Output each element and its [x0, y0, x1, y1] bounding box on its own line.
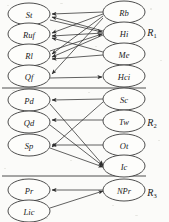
node-Hci[interactable]: Hci: [103, 65, 145, 87]
scan-speck-11: [45, 218, 48, 219]
edge-Rb-to-Rl: [52, 16, 103, 54]
scan-speck-7: [70, 160, 72, 161]
node-label-Pd: Pd: [23, 96, 34, 106]
node-Sc[interactable]: Sc: [103, 88, 145, 110]
node-Lic[interactable]: Lic: [8, 200, 50, 222]
graph-canvas: StRufRlQfRbHiMeHciPdQdSpScTwOtIcPrLicNPr…: [0, 0, 169, 222]
region-label-R1: R1: [146, 27, 156, 39]
edge-Pd-to-Ic: [50, 104, 103, 165]
edges-layer: [50, 12, 103, 208]
node-Ot[interactable]: Ot: [103, 134, 145, 156]
node-label-Ruf: Ruf: [22, 30, 36, 40]
scan-speck-8: [135, 215, 138, 216]
edge-Hi-to-Ruf: [52, 33, 103, 36]
node-label-NPr: NPr: [116, 186, 132, 196]
node-label-Me: Me: [118, 50, 130, 60]
node-Me[interactable]: Me: [103, 43, 145, 65]
scan-speck-10: [112, 205, 114, 206]
region-labels: R1R2R3: [146, 27, 156, 199]
edge-Qd-to-Ic: [50, 125, 103, 166]
node-label-Ic: Ic: [120, 162, 128, 172]
scan-speck-5: [12, 90, 15, 91]
scan-speck-1: [7, 5, 9, 6]
edge-Sp-to-Ic: [50, 148, 103, 167]
graph-diagram: StRufRlQfRbHiMeHciPdQdSpScTwOtIcPrLicNPr…: [0, 0, 169, 222]
node-Qf[interactable]: Qf: [8, 65, 50, 87]
edge-Sc-to-Sp: [52, 102, 103, 147]
node-Qd[interactable]: Qd: [8, 111, 50, 133]
node-Pd[interactable]: Pd: [8, 89, 50, 111]
edge-Rb-to-St: [52, 12, 103, 14]
edge-Hi-to-St: [52, 17, 103, 31]
scan-speck-13: [88, 92, 90, 93]
edge-Me-to-Ruf: [52, 38, 103, 52]
node-Rb[interactable]: Rb: [103, 1, 145, 23]
edge-Me-to-Rl: [52, 55, 103, 59]
scan-speck-6: [160, 60, 162, 61]
node-Sp[interactable]: Sp: [8, 134, 50, 156]
node-label-Ot: Ot: [120, 141, 129, 151]
node-label-Tw: Tw: [119, 117, 129, 127]
node-label-Sc: Sc: [120, 95, 128, 105]
edge-Lic-to-NPr: [50, 191, 103, 208]
edge-Sc-to-Pd: [52, 99, 103, 100]
node-Pr[interactable]: Pr: [8, 179, 50, 201]
edge-Qf-to-Hci: [50, 77, 102, 78]
node-label-Rl: Rl: [24, 51, 33, 61]
node-label-Rb: Rb: [118, 8, 128, 18]
node-Tw[interactable]: Tw: [103, 110, 145, 132]
node-label-Hci: Hci: [117, 72, 131, 82]
node-label-Hi: Hi: [119, 29, 129, 39]
scan-speck-12: [158, 140, 160, 141]
node-St[interactable]: St: [8, 3, 50, 25]
node-label-Sp: Sp: [25, 141, 34, 151]
node-Ruf[interactable]: Ruf: [8, 23, 50, 45]
edge-St-to-Hi: [50, 20, 102, 32]
node-label-Pr: Pr: [24, 186, 34, 196]
scan-speck-2: [60, 3, 63, 4]
node-label-St: St: [26, 10, 33, 20]
node-NPr[interactable]: NPr: [103, 179, 145, 201]
nodes-layer: StRufRlQfRbHiMeHciPdQdSpScTwOtIcPrLicNPr: [8, 1, 145, 222]
scan-speck-9: [4, 168, 6, 169]
node-label-Qd: Qd: [24, 118, 35, 128]
region-label-R3: R3: [146, 187, 156, 199]
node-label-Lic: Lic: [23, 207, 35, 217]
node-Rl[interactable]: Rl: [8, 44, 50, 66]
scan-speck-4: [95, 46, 97, 47]
node-Hi[interactable]: Hi: [103, 22, 145, 44]
region-label-R2: R2: [146, 117, 156, 129]
scan-speck-3: [150, 8, 152, 10]
scan-speck-14: [22, 178, 24, 179]
node-Ic[interactable]: Ic: [103, 155, 145, 177]
